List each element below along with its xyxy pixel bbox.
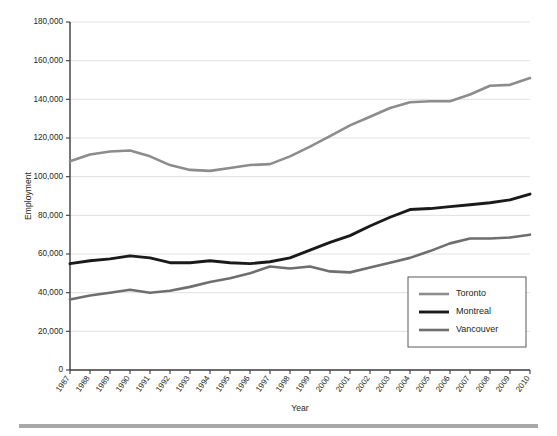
x-tick-label: 2000 [314,374,332,394]
x-tick-label: 2001 [334,374,352,394]
series-line-montreal [70,194,530,264]
y-tick-label: 120,000 [33,133,63,142]
x-axis-title: Year [291,403,309,413]
x-tick-label: 1987 [54,374,72,394]
employment-line-chart: 020,00040,00060,00080,000100,000120,0001… [0,0,557,436]
footer-divider [19,424,538,428]
x-tick-label: 1989 [94,374,112,394]
legend-label-toronto: Toronto [456,288,486,298]
chart-canvas: 020,00040,00060,00080,000100,000120,0001… [0,0,557,436]
x-tick-label: 1996 [234,374,252,394]
x-tick-label: 2009 [494,374,512,394]
x-tick-label: 2002 [354,374,372,394]
x-tick-label: 2006 [434,374,452,394]
x-tick-label: 2010 [514,374,532,394]
y-tick-label: 100,000 [33,172,63,181]
x-tick-label: 2008 [474,374,492,394]
x-tick-label: 1997 [254,374,272,394]
series-line-toronto [70,78,530,171]
chart-legend: TorontoMontrealVancouver [408,277,526,347]
y-tick-label: 20,000 [38,327,63,336]
x-tick-label: 1992 [154,374,172,394]
y-tick-label: 40,000 [38,288,63,297]
y-tick-label: 160,000 [33,56,63,65]
x-tick-label: 1994 [194,374,212,394]
y-tick-label: 180,000 [33,17,63,26]
x-tick-label: 2004 [394,374,412,394]
x-tick-label: 1988 [74,374,92,394]
x-tick-label: 1995 [214,374,232,394]
y-tick-label: 0 [58,365,63,374]
legend-label-vancouver: Vancouver [456,324,498,334]
x-tick-label: 2003 [374,374,392,394]
y-axis-title: Employment [23,172,33,220]
x-tick-label: 1993 [174,374,192,394]
y-tick-label: 140,000 [33,95,63,104]
x-tick-label: 2007 [454,374,472,394]
y-tick-label: 80,000 [38,211,63,220]
legend-label-montreal: Montreal [456,306,491,316]
x-tick-label: 2005 [414,374,432,394]
x-tick-label: 1999 [294,374,312,394]
x-tick-label: 1998 [274,374,292,394]
x-tick-label: 1990 [114,374,132,394]
y-tick-label: 60,000 [38,249,63,258]
x-tick-label: 1991 [134,374,152,394]
